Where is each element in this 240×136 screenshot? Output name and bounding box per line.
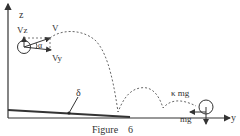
friction-label: κ mg bbox=[171, 88, 190, 98]
z-axis-label: z bbox=[19, 9, 24, 20]
delta-leader-line bbox=[69, 97, 78, 113]
vy-label: Vy bbox=[52, 53, 63, 63]
trajectory-path bbox=[50, 32, 196, 113]
figure-caption: Figure 6 bbox=[92, 124, 133, 135]
weight-label: mg bbox=[180, 114, 192, 124]
y-axis-label: y bbox=[231, 112, 236, 123]
alpha-arc bbox=[36, 43, 37, 49]
figure-6-diagram: z y δ Vz V Vy α κ mg mg Figure 6 bbox=[0, 0, 240, 136]
v-label: V bbox=[52, 23, 59, 33]
vz-label: Vz bbox=[17, 25, 28, 35]
delta-label: δ bbox=[76, 87, 81, 98]
